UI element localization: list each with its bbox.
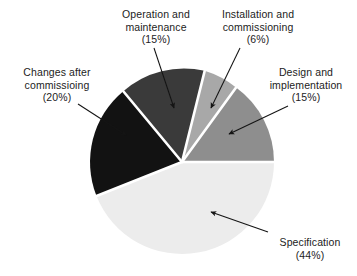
slice-label-percent: (20%): [2, 91, 112, 104]
slice-label-line1: Installation and: [206, 8, 310, 21]
slice-label-line1: Operation and: [104, 8, 208, 21]
slice-label-percent: (15%): [104, 33, 208, 46]
slice-label-installation-and-commissioning: Installation and commissioning (6%): [206, 8, 310, 46]
slice-label-line2: commissioing: [2, 79, 112, 92]
slice-label-line2: commissioning: [206, 21, 310, 34]
slice-label-line2: implementation: [256, 79, 356, 92]
slice-label-percent: (15%): [256, 91, 356, 104]
slice-label-percent: (6%): [206, 33, 310, 46]
slice-label-line2: maintenance: [104, 21, 208, 34]
slice-label-design-and-implementation: Design and implementation (15%): [256, 66, 356, 104]
slice-label-percent: (44%): [266, 249, 354, 262]
slice-label-specification: Specification (44%): [266, 236, 354, 261]
slice-label-line1: Design and: [256, 66, 356, 79]
pie-chart-figure: Operation and maintenance (15%) Installa…: [0, 0, 357, 276]
slice-label-line1: Changes after: [2, 66, 112, 79]
slice-label-line1: Specification: [266, 236, 354, 249]
slice-label-changes-after-commissioing: Changes after commissioing (20%): [2, 66, 112, 104]
slice-label-operation-and-maintenance: Operation and maintenance (15%): [104, 8, 208, 46]
